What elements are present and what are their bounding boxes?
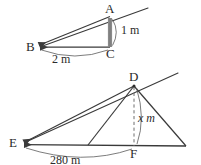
dimension-label-base-280m: 280 m [50,154,80,165]
vertex-label-e: E [9,136,17,149]
vertex-label-c: C [106,47,115,60]
top-dim-arc-height [113,20,117,46]
dimension-label-base-2m: 2 m [52,53,70,65]
geometry-figure: A B C 1 m 2 m D E F x m 280 m [0,0,201,165]
bottom-vertex-dot-D [133,85,136,88]
vertex-label-a: A [105,2,114,15]
dimension-label-height-xm: x m [138,112,155,124]
bottom-segment-DH [88,86,134,145]
figure-canvas [0,0,201,165]
vertex-label-f: F [130,147,137,160]
bottom-base-EG [24,145,186,146]
top-hypotenuse-BA [39,17,110,46]
bottom-ray-ED-extended [28,73,178,141]
bottom-hypotenuse-DE [24,86,134,143]
vertex-label-b: B [26,40,35,53]
dimension-label-height-1m: 1 m [121,24,139,36]
bottom-triangle-group [24,73,186,157]
vertex-label-d: D [129,70,138,83]
